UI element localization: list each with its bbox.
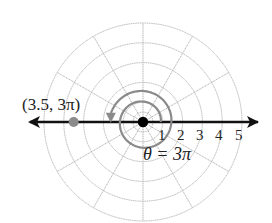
origin-dot: [138, 117, 148, 127]
tick-label-5: 5: [235, 127, 243, 143]
grid-spoke: [94, 36, 141, 117]
angle-label: θ = 3π: [143, 144, 192, 164]
tick-label-1: 1: [158, 127, 166, 143]
point-label: (3.5, 3π): [22, 95, 80, 114]
tick-label-4: 4: [215, 127, 223, 143]
polar-diagram: (3.5, 3π) 1 2 3 4 5 θ = 3π: [0, 0, 272, 223]
tick-label-2: 2: [177, 127, 185, 143]
plotted-point: [69, 117, 79, 127]
grid-spoke: [57, 124, 138, 171]
tick-label-3: 3: [196, 127, 204, 143]
grid-spoke: [94, 126, 141, 207]
grid-spoke: [145, 126, 192, 207]
